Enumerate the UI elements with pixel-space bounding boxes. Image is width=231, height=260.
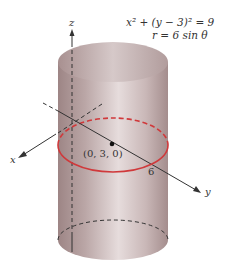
z-axis-label: z — [69, 18, 74, 28]
x-axis-label: x — [10, 155, 16, 165]
x-axis-back — [43, 103, 58, 111]
z-axis-arrowhead — [70, 29, 75, 36]
cylinder-top — [58, 42, 168, 82]
x-axis-line — [23, 134, 56, 155]
cartesian-equation: x² + (y − 3)² = 9 — [126, 17, 214, 28]
point-label: (0, 3, 0) — [83, 149, 123, 159]
polar-equation: r = 6 sin θ — [152, 30, 208, 41]
cylinder-body — [58, 62, 168, 260]
y-axis-label: y — [205, 187, 211, 197]
y-axis-arrowhead — [193, 186, 201, 193]
center-point — [110, 142, 115, 147]
x-axis-arrowhead — [18, 151, 27, 158]
radius-label: 6 — [148, 167, 154, 177]
